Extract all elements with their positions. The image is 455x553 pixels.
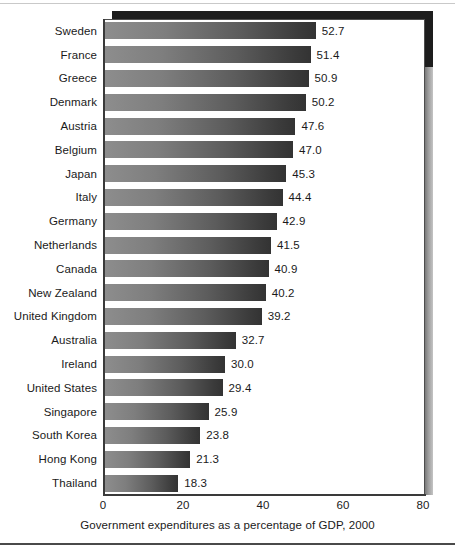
x-tick-label: 20 bbox=[177, 499, 190, 511]
bar-row: Germany42.9 bbox=[0, 209, 455, 233]
bar bbox=[105, 141, 293, 158]
category-label: Hong Kong bbox=[39, 453, 97, 465]
bar-value-label: 45.3 bbox=[292, 168, 315, 180]
x-tick-label: 80 bbox=[417, 499, 430, 511]
category-label: Italy bbox=[75, 191, 97, 203]
bar-row: Sweden52.7 bbox=[0, 19, 455, 43]
bar-value-label: 44.4 bbox=[289, 191, 312, 203]
bar-row: Thailand18.3 bbox=[0, 471, 455, 495]
category-label: Australia bbox=[51, 334, 97, 346]
bar-value-label: 18.3 bbox=[184, 477, 207, 489]
x-tick-label: 40 bbox=[257, 499, 270, 511]
bar bbox=[105, 22, 316, 39]
bar-row: Ireland30.0 bbox=[0, 352, 455, 376]
bar-row: Austria47.6 bbox=[0, 114, 455, 138]
bar bbox=[105, 237, 271, 254]
category-label: Belgium bbox=[55, 144, 97, 156]
category-label: United Kingdom bbox=[14, 310, 97, 322]
bar bbox=[105, 427, 200, 444]
x-axis-ticks: 020406080 bbox=[0, 499, 455, 515]
bar bbox=[105, 284, 266, 301]
bar-row: Hong Kong21.3 bbox=[0, 447, 455, 471]
bar-value-label: 29.4 bbox=[229, 382, 252, 394]
category-label: Netherlands bbox=[34, 239, 97, 251]
bar-value-label: 42.9 bbox=[283, 215, 306, 227]
category-label: Singapore bbox=[44, 406, 97, 418]
bar-value-label: 21.3 bbox=[196, 453, 219, 465]
x-tick-label: 60 bbox=[337, 499, 350, 511]
bar bbox=[105, 118, 295, 135]
category-label: New Zealand bbox=[28, 287, 97, 299]
bar-value-label: 50.9 bbox=[315, 72, 338, 84]
bar bbox=[105, 94, 306, 111]
bar-row: Singapore25.9 bbox=[0, 400, 455, 424]
x-axis-title: Government expenditures as a percentage … bbox=[0, 519, 455, 531]
category-label: Sweden bbox=[55, 25, 97, 37]
bar-chart-figure: Sweden52.7France51.4Greece50.9Denmark50.… bbox=[0, 0, 455, 553]
bar-row: New Zealand40.2 bbox=[0, 281, 455, 305]
category-label: Ireland bbox=[61, 358, 97, 370]
x-tick-label: 0 bbox=[100, 499, 106, 511]
bar bbox=[105, 332, 236, 349]
bar-value-label: 25.9 bbox=[215, 406, 238, 418]
bar-row: Canada40.9 bbox=[0, 257, 455, 281]
bar-value-label: 30.0 bbox=[231, 358, 254, 370]
bar-row: Netherlands41.5 bbox=[0, 233, 455, 257]
bar bbox=[105, 475, 178, 492]
bar bbox=[105, 379, 223, 396]
bar bbox=[105, 308, 262, 325]
bar-value-label: 41.5 bbox=[277, 239, 300, 251]
category-label: Canada bbox=[56, 263, 97, 275]
bar-row: United States29.4 bbox=[0, 376, 455, 400]
category-label: Greece bbox=[59, 72, 97, 84]
bar-value-label: 47.6 bbox=[301, 120, 324, 132]
bar-value-label: 52.7 bbox=[322, 25, 345, 37]
category-label: South Korea bbox=[32, 429, 97, 441]
category-label: Denmark bbox=[50, 96, 97, 108]
bar bbox=[105, 46, 311, 63]
category-label: Austria bbox=[61, 120, 98, 132]
bar-row: Belgium47.0 bbox=[0, 138, 455, 162]
bar bbox=[105, 260, 269, 277]
category-label: Japan bbox=[65, 168, 97, 180]
bar-row: Australia32.7 bbox=[0, 328, 455, 352]
bar bbox=[105, 356, 225, 373]
bar-row: United Kingdom39.2 bbox=[0, 305, 455, 329]
bar-value-label: 23.8 bbox=[206, 429, 229, 441]
bar bbox=[105, 403, 209, 420]
category-label: Germany bbox=[49, 215, 97, 227]
bar-rows-container: Sweden52.7France51.4Greece50.9Denmark50.… bbox=[0, 19, 455, 495]
bar-value-label: 40.2 bbox=[272, 287, 295, 299]
bar-row: Japan45.3 bbox=[0, 162, 455, 186]
bar bbox=[105, 451, 190, 468]
category-label: United States bbox=[27, 382, 97, 394]
bar-value-label: 47.0 bbox=[299, 144, 322, 156]
bar bbox=[105, 165, 286, 182]
bar-row: Greece50.9 bbox=[0, 67, 455, 91]
bar bbox=[105, 189, 283, 206]
bar-row: Denmark50.2 bbox=[0, 90, 455, 114]
bar-value-label: 40.9 bbox=[275, 263, 298, 275]
bar-row: Italy44.4 bbox=[0, 186, 455, 210]
bar bbox=[105, 70, 309, 87]
bar-value-label: 39.2 bbox=[268, 310, 291, 322]
bar-row: South Korea23.8 bbox=[0, 424, 455, 448]
bar bbox=[105, 213, 277, 230]
bar-value-label: 50.2 bbox=[312, 96, 335, 108]
category-label: France bbox=[61, 49, 97, 61]
bar-row: France51.4 bbox=[0, 43, 455, 67]
category-label: Thailand bbox=[52, 477, 97, 489]
bar-value-label: 32.7 bbox=[242, 334, 265, 346]
bar-value-label: 51.4 bbox=[317, 49, 340, 61]
